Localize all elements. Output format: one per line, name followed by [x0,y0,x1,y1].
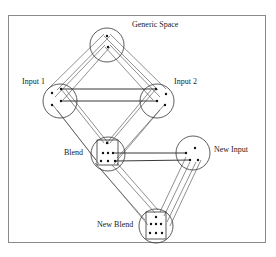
label-new-input: New Input [214,145,248,154]
label-new-blend: New Blend [97,220,133,229]
new-blend-circle [139,209,173,243]
generic-space-circle [90,28,124,62]
blending-diagram [0,0,276,257]
label-input2: Input 2 [174,77,197,86]
projection-lines [48,34,201,226]
label-blend: Blend [64,148,83,157]
label-generic-space: Generic Space [132,20,178,29]
new-input-circle [176,136,210,170]
label-input1: Input 1 [22,77,45,86]
space-circles [43,28,210,243]
